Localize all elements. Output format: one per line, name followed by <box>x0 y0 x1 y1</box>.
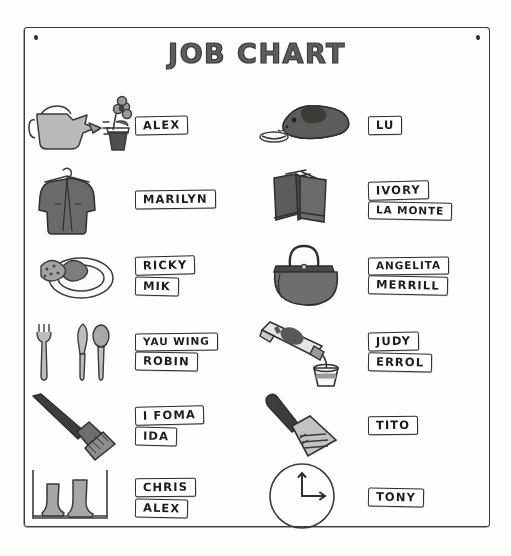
plate-cookies-icon <box>25 240 133 312</box>
broom-icon <box>25 390 133 462</box>
jobs-column-left: ALEX <box>25 90 258 520</box>
name-label[interactable]: MIK <box>135 277 179 297</box>
name-label[interactable]: MARILYN <box>135 190 216 210</box>
paint-tube-cup-icon <box>258 316 366 388</box>
job-row[interactable]: CHRIS ALEX <box>25 462 258 534</box>
name-labels: TITO <box>366 416 491 435</box>
name-label[interactable]: IDA <box>135 427 177 447</box>
job-row[interactable]: ALEX <box>25 90 258 162</box>
name-label[interactable]: ANGELITA <box>368 256 449 275</box>
job-row[interactable]: MARILYN <box>25 164 258 236</box>
job-row[interactable]: TONY <box>258 462 491 534</box>
name-labels: ALEX <box>133 116 258 135</box>
name-label[interactable]: CHRIS <box>135 478 196 498</box>
name-labels: JUDY ERROL <box>366 332 491 372</box>
jobs-grid: ALEX <box>25 90 491 520</box>
books-icon <box>258 164 366 236</box>
name-labels: TONY <box>366 488 491 507</box>
name-label[interactable]: LU <box>368 116 403 135</box>
name-labels: YAU WING ROBIN <box>133 333 258 372</box>
page-title: JOB CHART <box>25 38 489 69</box>
name-label[interactable]: ERROL <box>368 352 433 372</box>
name-label[interactable]: ALEX <box>135 116 189 136</box>
rain-boots-icon <box>25 462 133 534</box>
handbag-icon <box>258 240 366 312</box>
job-row[interactable]: LU <box>258 90 491 162</box>
name-label[interactable]: TITO <box>368 416 418 436</box>
poster-board: JOB CHART <box>24 27 490 527</box>
job-row[interactable]: I FOMA IDA <box>25 390 258 462</box>
name-label[interactable]: YAU WING <box>135 332 218 351</box>
clock-icon <box>258 462 366 534</box>
name-label[interactable]: TONY <box>368 488 424 508</box>
name-label[interactable]: I FOMA <box>135 405 204 426</box>
name-labels: IVORY LA MONTE <box>366 181 491 220</box>
name-label[interactable]: ROBIN <box>135 352 198 372</box>
name-labels: MARILYN <box>133 190 258 209</box>
name-label[interactable]: IVORY <box>368 180 429 200</box>
name-label[interactable]: MERRILL <box>368 276 448 297</box>
job-row[interactable]: TITO <box>258 390 491 462</box>
name-labels: RICKY MIK <box>133 256 258 296</box>
job-row[interactable]: ANGELITA MERRILL <box>258 240 491 312</box>
name-label[interactable]: RICKY <box>135 255 196 275</box>
name-label[interactable]: LA MONTE <box>368 201 453 221</box>
name-label[interactable]: ALEX <box>135 498 189 518</box>
fork-knife-spoon-icon <box>25 316 133 388</box>
name-labels: ANGELITA MERRILL <box>366 257 491 296</box>
job-chart-page: JOB CHART <box>0 0 511 556</box>
job-row[interactable]: JUDY ERROL <box>258 316 491 388</box>
guinea-pig-bowl-icon <box>258 90 366 162</box>
name-labels: LU <box>366 116 491 135</box>
name-labels: CHRIS ALEX <box>133 478 258 518</box>
jobs-column-right: LU <box>258 90 491 520</box>
dustpan-icon <box>258 390 366 462</box>
name-labels: I FOMA IDA <box>133 406 258 446</box>
job-row[interactable]: IVORY LA MONTE <box>258 164 491 236</box>
coat-hanger-icon <box>25 164 133 236</box>
watering-can-plant-icon <box>25 90 133 162</box>
job-row[interactable]: YAU WING ROBIN <box>25 316 258 388</box>
name-label[interactable]: JUDY <box>368 331 420 351</box>
job-row[interactable]: RICKY MIK <box>25 240 258 312</box>
